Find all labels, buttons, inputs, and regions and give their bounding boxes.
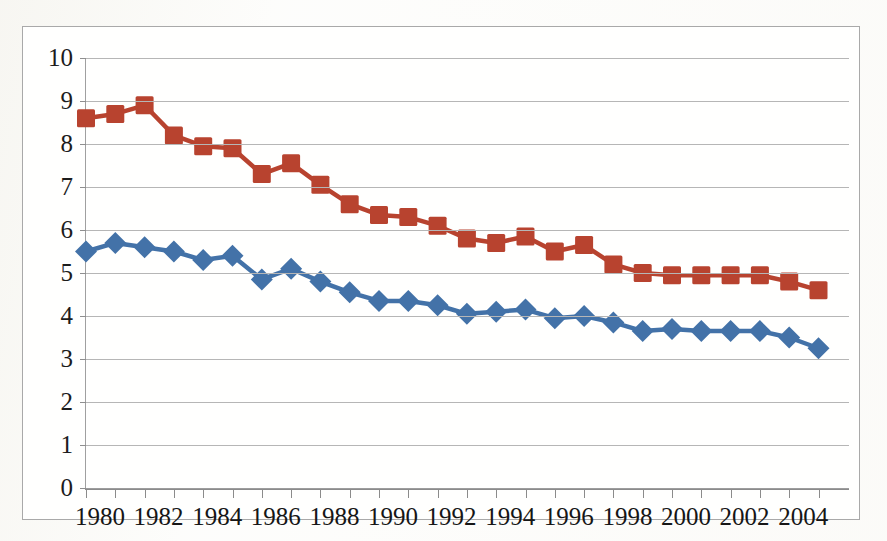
y-axis-tick [80, 101, 86, 102]
x-axis-label: 2004 [768, 503, 838, 530]
y-axis-label: 4 [33, 303, 73, 328]
y-axis-tick [80, 316, 86, 317]
chart-page: 0123456789101980198219841986198819901992… [0, 0, 887, 541]
y-axis-tick [80, 187, 86, 188]
x-axis-tick [115, 489, 116, 498]
x-axis-tick [233, 489, 234, 498]
gridline [85, 273, 849, 274]
y-axis-label: 9 [33, 88, 73, 113]
x-axis-tick [174, 489, 175, 498]
chart-frame: 0123456789101980198219841986198819901992… [22, 26, 860, 520]
gridline [85, 359, 849, 360]
x-axis-tick [613, 489, 614, 498]
y-axis-tick [80, 230, 86, 231]
x-axis-tick [291, 489, 292, 498]
x-axis-tick [526, 489, 527, 498]
y-axis-tick [80, 144, 86, 145]
y-axis-label: 6 [33, 217, 73, 242]
y-axis-label: 0 [33, 475, 73, 500]
gridline [85, 101, 849, 102]
gridline [85, 144, 849, 145]
y-axis-tick [80, 359, 86, 360]
x-axis-tick [467, 489, 468, 498]
x-axis-tick [496, 489, 497, 498]
gridline [85, 58, 849, 59]
y-axis-label: 7 [33, 174, 73, 199]
x-axis-tick [819, 489, 820, 498]
y-axis-tick [80, 273, 86, 274]
gridline [85, 445, 849, 446]
x-axis-tick [555, 489, 556, 498]
y-axis-label: 1 [33, 432, 73, 457]
x-axis-tick [789, 489, 790, 498]
x-axis-tick [350, 489, 351, 498]
x-axis-tick [408, 489, 409, 498]
y-axis-tick [80, 402, 86, 403]
y-axis-tick [80, 58, 86, 59]
y-axis-label: 3 [33, 346, 73, 371]
y-axis-label: 10 [33, 45, 73, 70]
x-axis-tick [760, 489, 761, 498]
y-axis-label: 5 [33, 260, 73, 285]
x-axis-tick [262, 489, 263, 498]
x-axis-tick [701, 489, 702, 498]
x-axis-tick [672, 489, 673, 498]
x-axis-tick [379, 489, 380, 498]
x-axis-tick [145, 489, 146, 498]
x-axis-tick [584, 489, 585, 498]
gridline [85, 230, 849, 231]
gridline [85, 402, 849, 403]
x-axis-tick [86, 489, 87, 498]
x-axis-tick [438, 489, 439, 498]
x-axis-tick [643, 489, 644, 498]
x-axis-tick [731, 489, 732, 498]
y-axis-label: 8 [33, 131, 73, 156]
x-axis-tick [320, 489, 321, 498]
gridline [85, 316, 849, 317]
y-axis-tick [80, 445, 86, 446]
y-axis-label: 2 [33, 389, 73, 414]
gridline [85, 187, 849, 188]
x-axis-tick [203, 489, 204, 498]
